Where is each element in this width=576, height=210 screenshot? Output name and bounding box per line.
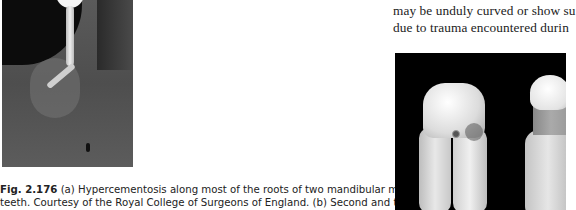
figure-caption: Fig. 2.176 (a) Hypercementosis along mos… bbox=[0, 183, 380, 209]
radiograph-figure-a bbox=[2, 0, 133, 167]
body-paragraph: may be unduly curved or show su due to t… bbox=[393, 2, 576, 36]
caption-text-1: (a) Hypercementosis along most of the ro… bbox=[57, 184, 417, 195]
tooth-photo-figure-b bbox=[395, 53, 566, 210]
figure-label: Fig. 2.176 bbox=[0, 184, 57, 195]
radiolucent-region-right bbox=[97, 0, 133, 70]
tooth-root bbox=[525, 130, 566, 210]
furcation-dot bbox=[452, 130, 460, 138]
body-line-1: may be unduly curved or show su bbox=[393, 2, 576, 19]
caption-line-1: Fig. 2.176 (a) Hypercementosis along mos… bbox=[0, 183, 380, 196]
body-line-2: due to trauma encountered durin bbox=[393, 19, 576, 36]
radiograph-mark bbox=[86, 143, 90, 152]
tooth-crown bbox=[530, 75, 566, 110]
root-canal-filling bbox=[66, 6, 74, 66]
crown-shadow bbox=[465, 123, 483, 141]
caption-line-2: teeth. Courtesy of the Royal College of … bbox=[0, 196, 380, 209]
molar-tooth-right bbox=[525, 75, 566, 210]
molar-tooth-left bbox=[419, 83, 485, 210]
tooth-root-mesial bbox=[419, 128, 451, 210]
